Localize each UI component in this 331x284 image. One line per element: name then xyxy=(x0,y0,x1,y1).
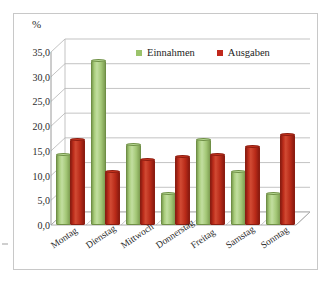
bar-montag-ausgaben[interactable] xyxy=(70,139,85,225)
bar-cap xyxy=(56,153,71,156)
bar-dienstag-ausgaben[interactable] xyxy=(105,171,120,225)
bar-cap xyxy=(245,145,260,148)
bar-sonntag-einnahmen[interactable] xyxy=(266,193,281,225)
bar-freitag-ausgaben[interactable] xyxy=(210,154,225,225)
bars-layer xyxy=(14,14,317,269)
bar-dienstag-einnahmen[interactable] xyxy=(91,60,106,225)
bar-samstag-ausgaben[interactable] xyxy=(245,146,260,225)
bar-donnerstag-ausgaben[interactable] xyxy=(175,156,190,225)
bar-cap xyxy=(196,138,211,141)
bar-cap xyxy=(161,192,176,195)
chart-frame: % Einnahmen Ausgaben 0,05,010,015,020,02… xyxy=(13,13,318,270)
bar-cap xyxy=(126,143,141,146)
scan-edge-artifact xyxy=(2,243,8,245)
bar-cap xyxy=(210,153,225,156)
bar-cap xyxy=(231,170,246,173)
bar-montag-einnahmen[interactable] xyxy=(56,154,71,225)
bar-cap xyxy=(175,155,190,158)
chart-figure: % Einnahmen Ausgaben 0,05,010,015,020,02… xyxy=(0,0,331,284)
bar-cap xyxy=(70,138,85,141)
bar-cap xyxy=(91,59,106,62)
plot-area: 0,05,010,015,020,025,030,035,0 MontagDie… xyxy=(14,14,317,269)
bar-sonntag-ausgaben[interactable] xyxy=(280,134,295,225)
bar-samstag-einnahmen[interactable] xyxy=(231,171,246,225)
bar-donnerstag-einnahmen[interactable] xyxy=(161,193,176,225)
bar-freitag-einnahmen[interactable] xyxy=(196,139,211,225)
bar-cap xyxy=(140,158,155,161)
bar-cap xyxy=(105,170,120,173)
bar-cap xyxy=(266,192,281,195)
bar-cap xyxy=(280,133,295,136)
bar-mittwoch-ausgaben[interactable] xyxy=(140,159,155,225)
bar-mittwoch-einnahmen[interactable] xyxy=(126,144,141,225)
